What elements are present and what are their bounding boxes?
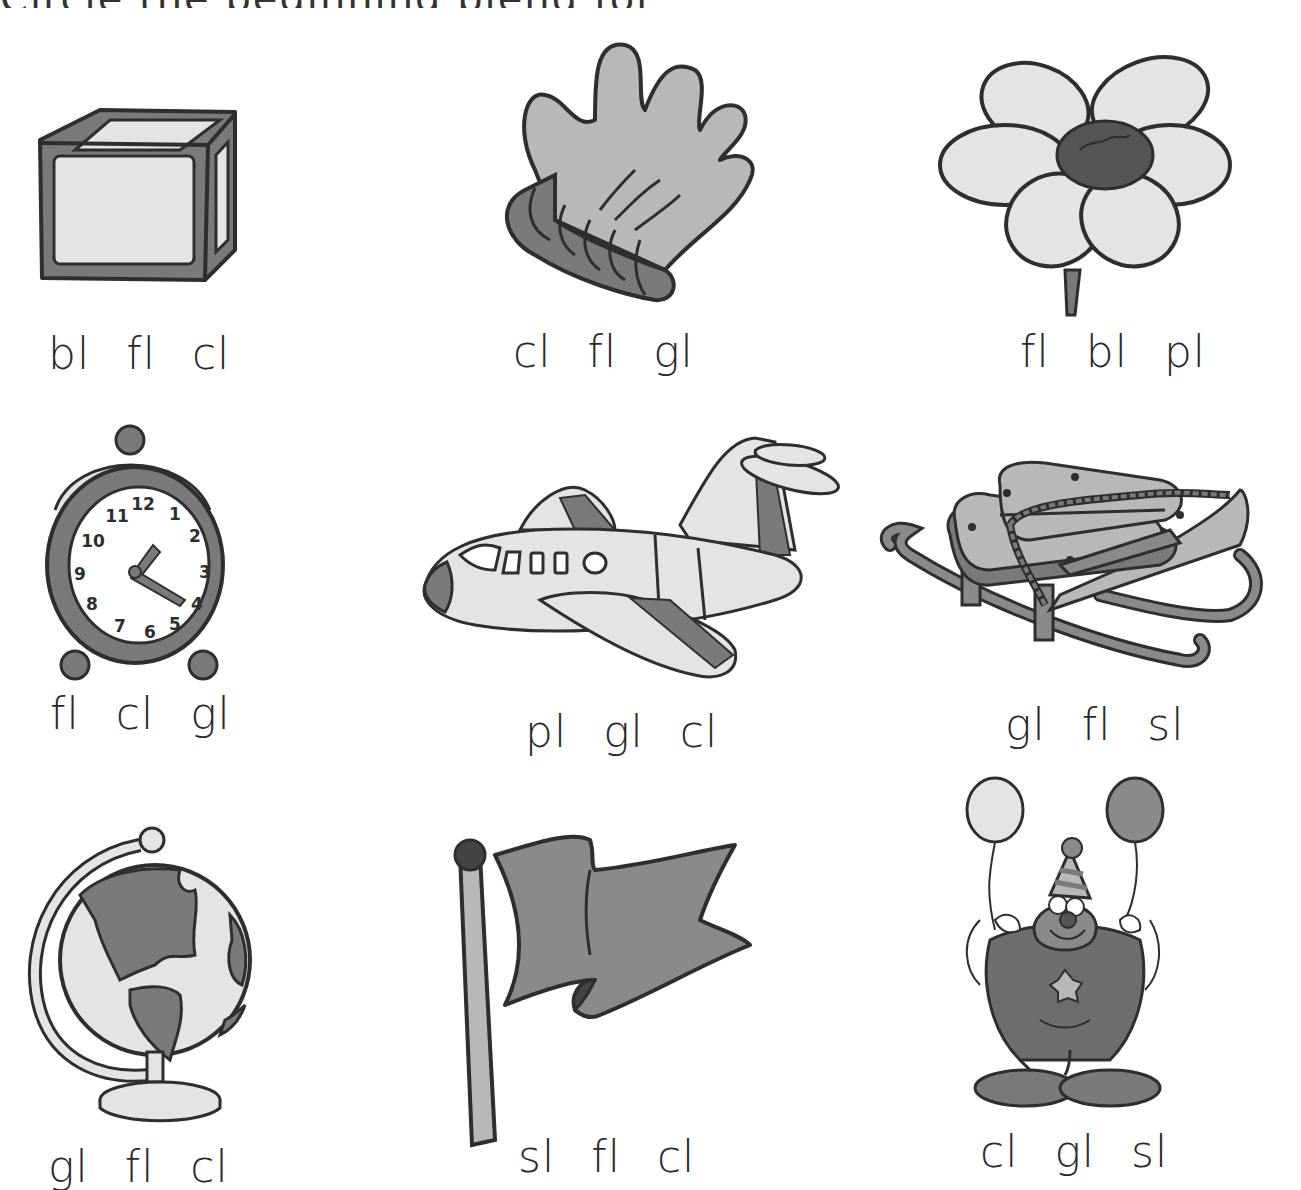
choice[interactable]: gl — [603, 710, 644, 754]
choice[interactable]: cl — [192, 332, 230, 376]
globe-icon — [20, 820, 250, 1130]
choice[interactable]: gl — [48, 1145, 89, 1189]
choice[interactable]: fl — [125, 1145, 155, 1189]
svg-text:3: 3 — [199, 562, 211, 582]
answer-choices: gl fl sl — [1005, 703, 1185, 747]
sled-icon — [880, 455, 1280, 695]
answer-choices: sl fl cl — [518, 1135, 695, 1179]
worksheet-title: Circle the beginning blend for each pict… — [0, 0, 700, 8]
answer-choices: cl fl gl — [513, 330, 694, 374]
answer-choices: fl cl gl — [50, 692, 231, 736]
svg-text:12: 12 — [131, 494, 155, 514]
svg-text:7: 7 — [114, 616, 126, 636]
svg-text:9: 9 — [74, 564, 86, 584]
block-icon — [30, 100, 240, 300]
airplane-icon — [415, 430, 835, 690]
choice[interactable]: fl — [50, 692, 80, 736]
worksheet-title-cutoff: Circle the beginning blend for each pict… — [0, 0, 700, 8]
choice[interactable]: cl — [190, 1145, 228, 1189]
answer-choices: fl bl pl — [1020, 330, 1206, 374]
clown-icon — [950, 770, 1180, 1110]
choice[interactable]: gl — [1054, 1130, 1095, 1174]
choice[interactable]: gl — [653, 330, 694, 374]
svg-text:10: 10 — [81, 531, 105, 551]
choice[interactable]: fl — [587, 330, 617, 374]
choice[interactable]: gl — [1005, 703, 1046, 747]
choice[interactable]: sl — [1147, 703, 1184, 747]
answer-choices: pl gl cl — [525, 710, 718, 754]
svg-text:1: 1 — [169, 504, 181, 524]
choice[interactable]: pl — [525, 710, 567, 754]
choice[interactable]: bl — [1086, 330, 1128, 374]
svg-text:2: 2 — [189, 526, 201, 546]
choice[interactable]: bl — [48, 332, 90, 376]
choice[interactable]: cl — [680, 710, 718, 754]
answer-choices: cl gl sl — [980, 1130, 1168, 1174]
flower-icon — [945, 60, 1225, 320]
choice[interactable]: sl — [1131, 1130, 1168, 1174]
choice[interactable]: gl — [190, 692, 231, 736]
svg-text:5: 5 — [169, 614, 181, 634]
answer-choices: bl fl cl — [48, 332, 230, 376]
glove-icon — [495, 40, 755, 310]
flag-icon — [450, 835, 770, 1155]
choice[interactable]: fl — [126, 332, 156, 376]
answer-choices: gl fl cl — [48, 1145, 229, 1189]
svg-text:11: 11 — [105, 506, 129, 526]
choice[interactable]: fl — [1082, 703, 1112, 747]
choice[interactable]: fl — [1020, 330, 1050, 374]
svg-text:4: 4 — [191, 594, 203, 614]
svg-text:8: 8 — [86, 594, 98, 614]
choice[interactable]: pl — [1164, 330, 1206, 374]
choice[interactable]: fl — [591, 1135, 621, 1179]
svg-text:6: 6 — [144, 622, 156, 642]
choice[interactable]: cl — [657, 1135, 695, 1179]
choice[interactable]: cl — [513, 330, 551, 374]
choice[interactable]: sl — [518, 1135, 555, 1179]
alarm-clock-icon: 12 1 2 3 4 5 6 7 8 9 10 11 — [35, 420, 225, 680]
choice[interactable]: cl — [980, 1130, 1018, 1174]
choice[interactable]: cl — [116, 692, 154, 736]
